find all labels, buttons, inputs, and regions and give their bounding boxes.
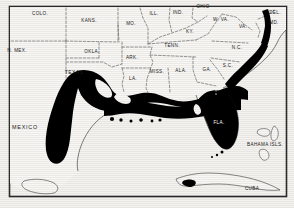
- state-label-oklahoma: OKLA.: [84, 50, 99, 55]
- map-graphic: [0, 0, 294, 208]
- state-label-arkansas: ARK.: [126, 56, 138, 61]
- region-label-cuba: CUBA: [245, 187, 259, 192]
- region-label-mexico: MEXICO: [12, 125, 38, 130]
- state-label-kentucky: KY.: [186, 30, 194, 35]
- state-label-west-virginia: W. VA.: [213, 18, 229, 23]
- distribution-range-map: COLO.KANS.MO.ILL.IND.OHIOW. VA.VA.DEL.MD…: [0, 0, 294, 208]
- state-label-louisiana: LA.: [129, 77, 137, 82]
- state-label-new-mexico: N. MEX.: [7, 49, 27, 54]
- state-label-georgia: GA.: [203, 68, 212, 73]
- state-label-illinois: ILL.: [149, 12, 158, 17]
- state-label-alabama: ALA.: [175, 69, 186, 74]
- state-label-north-carolina: N.C.: [232, 46, 243, 51]
- state-label-tennessee: TENN.: [164, 44, 180, 49]
- state-label-virginia: VA.: [239, 25, 247, 30]
- state-label-texas: TEXAS: [65, 70, 83, 75]
- state-label-delaware: DEL.: [269, 11, 281, 16]
- state-label-colorado: COLO.: [32, 12, 48, 17]
- state-label-mississippi: MISS.: [150, 70, 164, 75]
- region-label-florida: FLA.: [213, 121, 224, 126]
- region-label-bahama-islands: BAHAMA ISLS.: [247, 143, 283, 148]
- state-label-ohio: OHIO: [196, 5, 209, 10]
- state-label-south-carolina: S.C.: [223, 64, 233, 69]
- state-label-missouri: MO.: [126, 22, 136, 27]
- state-label-indiana: IND.: [173, 11, 184, 16]
- state-label-kansas: KANS.: [81, 19, 97, 24]
- state-label-maryland: MD.: [269, 21, 278, 26]
